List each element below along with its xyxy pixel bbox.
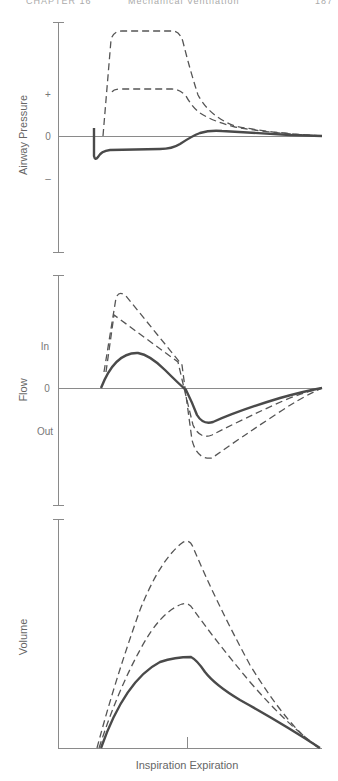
volume-panel: Volume Inspiration Expiration (17, 519, 322, 771)
flow-panel: Flow In 0 Out (17, 275, 322, 506)
flow-curve-high-dashed (104, 293, 322, 458)
pressure-y-axis (53, 22, 64, 253)
pressure-curve-solid (94, 128, 322, 159)
ventilation-waveform-figure: Airway Pressure + 0 – Flow In 0 Out (0, 0, 338, 781)
volume-y-label: Volume (17, 619, 29, 656)
pressure-tick-minus: – (45, 173, 51, 184)
volume-curve-solid (101, 657, 320, 748)
pressure-tick-zero: 0 (45, 131, 51, 142)
volume-axes (53, 519, 322, 749)
flow-tick-in: In (41, 341, 49, 352)
volume-x-label: Inspiration Expiration (136, 759, 239, 771)
flow-curve-medium-dashed (106, 315, 322, 436)
pressure-panel: Airway Pressure + 0 – (17, 22, 322, 253)
flow-y-label: Flow (17, 378, 29, 401)
pressure-y-label: Airway Pressure (17, 95, 29, 175)
volume-curve-high-dashed (97, 541, 319, 748)
pressure-curve-medium-dashed (112, 89, 322, 136)
flow-curve-solid (101, 353, 322, 423)
pressure-tick-plus: + (45, 89, 51, 100)
flow-y-axis (53, 275, 64, 506)
flow-tick-zero: 0 (44, 383, 50, 394)
flow-tick-out: Out (37, 426, 53, 437)
